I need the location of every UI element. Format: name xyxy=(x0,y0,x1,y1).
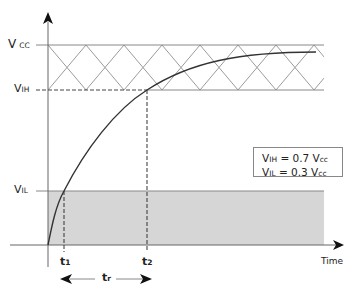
legend-vih-sub2: cc xyxy=(320,155,328,164)
legend-vih-sub: IH xyxy=(269,155,277,164)
vcc-label-sub: CC xyxy=(19,41,29,50)
time-label: Time xyxy=(321,257,343,266)
hatched-band xyxy=(48,45,324,90)
vil-label-main: V xyxy=(14,183,22,196)
tr-label: tr xyxy=(102,272,111,283)
vih-label: VIH xyxy=(14,83,29,94)
legend-vil-sub2: cc xyxy=(318,169,326,178)
t2-label: t2 xyxy=(142,256,152,267)
t1-label: t1 xyxy=(60,256,70,267)
vil-label: VIL xyxy=(14,184,28,195)
legend-vih-eq: = 0.7 V xyxy=(277,152,320,164)
low-region xyxy=(48,191,324,245)
vcc-label: VCC xyxy=(8,38,30,50)
vih-label-sub: IH xyxy=(22,85,30,94)
legend-vil-eq: = 0.3 V xyxy=(276,166,319,178)
legend-box: VIH = 0.7 Vcc VIL = 0.3 Vcc xyxy=(253,147,343,177)
tr-label-sub: r xyxy=(107,274,111,283)
legend-line-vil: VIL = 0.3 Vcc xyxy=(262,166,342,180)
t2-label-sub: 2 xyxy=(147,258,152,267)
vcc-label-main: V xyxy=(8,37,16,51)
t1-label-sub: 1 xyxy=(65,258,70,267)
legend-line-vih: VIH = 0.7 Vcc xyxy=(262,152,342,166)
vih-label-main: V xyxy=(14,82,22,95)
vil-label-sub: IL xyxy=(22,186,28,195)
